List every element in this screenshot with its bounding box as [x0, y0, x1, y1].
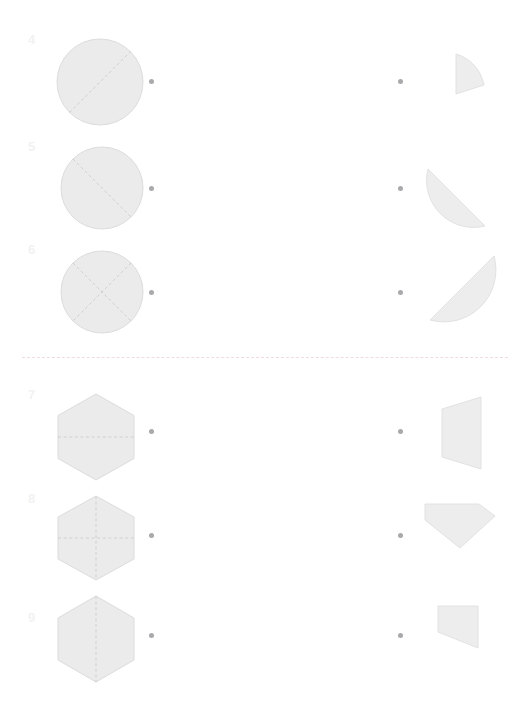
left-connector-dot-9[interactable]	[149, 633, 154, 638]
row-number-4: 4	[28, 33, 35, 46]
left-connector-dot-6[interactable]	[149, 290, 154, 295]
right-connector-dot-7[interactable]	[398, 429, 403, 434]
row-number-6: 6	[28, 243, 35, 256]
right-connector-dot-5[interactable]	[398, 186, 403, 191]
exercise-row-4: 4	[0, 0, 519, 120]
row-number-8: 8	[28, 492, 35, 505]
hexagon-half-trapezoid-piece[interactable]	[437, 395, 485, 471]
right-connector-dot-9[interactable]	[398, 633, 403, 638]
half-circle-tilted-piece[interactable]	[422, 250, 504, 332]
section-divider	[22, 357, 508, 358]
left-connector-dot-5[interactable]	[149, 186, 154, 191]
row-number-7: 7	[28, 388, 35, 401]
exercise-row-9: 9	[0, 578, 519, 693]
right-connector-dot-8[interactable]	[398, 533, 403, 538]
hexagon-divided-in-halves-vertical[interactable]	[55, 594, 137, 684]
row-number-9: 9	[28, 611, 35, 624]
quarter-circle-piece[interactable]	[427, 52, 489, 104]
circle-divided-in-quarters-x[interactable]	[60, 250, 144, 334]
exercise-row-7: 7	[0, 372, 519, 482]
hexagon-divided-in-quarters-cross[interactable]	[55, 494, 137, 582]
left-connector-dot-8[interactable]	[149, 533, 154, 538]
right-connector-dot-4[interactable]	[398, 79, 403, 84]
left-connector-dot-4[interactable]	[149, 79, 154, 84]
worksheet-page: 4 5	[0, 0, 519, 713]
exercise-row-6: 6	[0, 212, 519, 332]
hexagon-divided-in-halves-horizontal[interactable]	[55, 392, 137, 482]
right-connector-dot-6[interactable]	[398, 290, 403, 295]
exercise-row-5: 5	[0, 110, 519, 220]
row-number-5: 5	[28, 140, 35, 153]
hexagon-half-point-down-piece[interactable]	[423, 502, 499, 552]
hexagon-quarter-piece[interactable]	[434, 602, 490, 654]
left-connector-dot-7[interactable]	[149, 429, 154, 434]
exercise-row-8: 8	[0, 478, 519, 583]
